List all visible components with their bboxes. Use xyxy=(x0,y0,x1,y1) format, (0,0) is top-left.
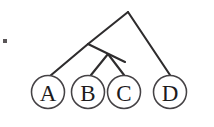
edge-root-to-internal-1 xyxy=(88,12,128,44)
leaf-label-c: C xyxy=(116,81,131,106)
edge-internal-1-to-internal-2 xyxy=(88,44,125,62)
edge-internal-1-to-leaf-a xyxy=(50,44,88,76)
edge-internal-2-to-leaf-b xyxy=(91,54,108,75)
leaf-label-b: B xyxy=(80,81,95,106)
stray-period-mark xyxy=(3,39,7,43)
leaf-label-a: A xyxy=(40,81,57,106)
cladogram-figure: A B C D xyxy=(0,0,214,127)
edge-root-to-leaf-d xyxy=(128,12,170,75)
leaf-label-d: D xyxy=(162,81,179,106)
tree-diagram: A B C D xyxy=(0,0,214,127)
